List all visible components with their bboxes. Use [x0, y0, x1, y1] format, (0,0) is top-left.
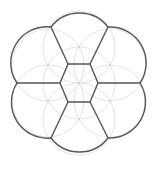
site-dot	[47, 100, 49, 102]
site-dot	[78, 82, 80, 84]
site-dot	[78, 46, 80, 48]
outer-petal-arc	[51, 13, 108, 27]
outer-petal-arc	[51, 138, 108, 152]
site-dot	[109, 100, 111, 102]
voronoi-flower-diagram	[0, 0, 158, 169]
site-dot	[78, 118, 80, 120]
diagram-canvas	[0, 0, 158, 169]
cell-spoke	[51, 27, 68, 64]
site-dot	[109, 64, 111, 66]
site-dot	[47, 64, 49, 66]
